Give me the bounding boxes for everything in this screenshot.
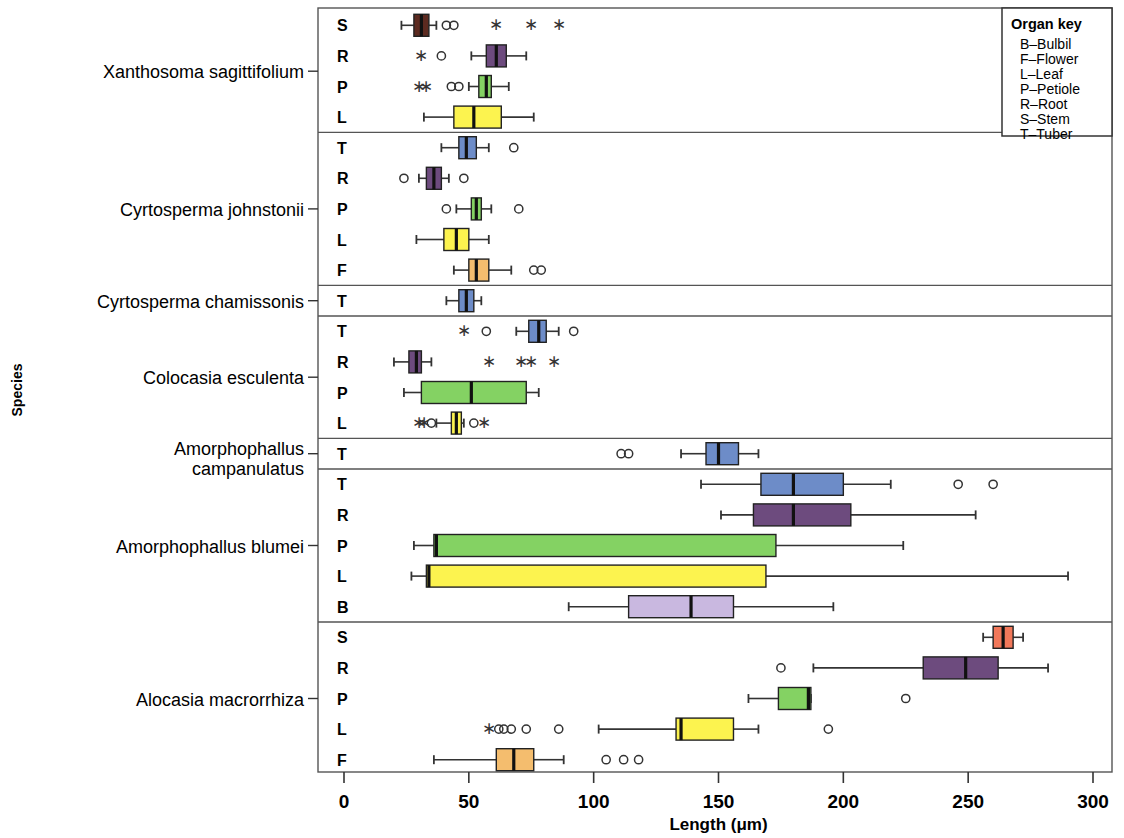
outlier-circle	[777, 664, 785, 672]
box	[761, 473, 843, 495]
outlier-star: ∗	[524, 15, 538, 34]
outlier-circle	[570, 327, 578, 335]
boxplot-row-R	[777, 657, 1048, 679]
outlier-circle	[635, 756, 643, 764]
organ-label-T: T	[337, 140, 347, 157]
box	[676, 718, 733, 740]
boxplot-row-T	[617, 443, 758, 465]
organ-label-R: R	[337, 507, 349, 524]
organ-label-T: T	[337, 293, 347, 310]
outlier-star: ∗	[482, 719, 496, 738]
organ-label-R: R	[337, 170, 349, 187]
outlier-circle	[460, 174, 468, 182]
box	[753, 504, 850, 526]
outlier-star: ∗	[547, 352, 561, 371]
organ-label-L: L	[337, 415, 347, 432]
box	[706, 443, 738, 465]
outlier-circle	[902, 694, 910, 702]
organ-label-F: F	[337, 752, 347, 769]
outlier-star: ∗	[477, 413, 491, 432]
outlier-star: ∗	[482, 352, 496, 371]
organ-label-S: S	[337, 629, 348, 646]
boxplot-row-R	[721, 504, 976, 526]
legend-entry-T: T–Tuber	[1020, 126, 1073, 142]
organ-label-R: R	[337, 660, 349, 677]
boxplot-svg: ∗∗∗∗∗∗∗∗∗∗∗∗∗∗∗SRPLTRPLFTTRPLTTRPLBSRPLF…	[0, 0, 1124, 838]
legend-entry-B: B–Bulbil	[1020, 36, 1071, 52]
species-label: Cyrtosperma chamissonis	[97, 292, 304, 312]
species-label: Amorphophallus	[174, 439, 304, 459]
box	[426, 565, 766, 587]
organ-label-R: R	[337, 48, 349, 65]
x-tick-label: 50	[458, 791, 479, 812]
boxplot-row-L	[411, 565, 1068, 587]
organ-label-P: P	[337, 79, 348, 96]
boxplot-row-P	[404, 382, 539, 404]
box	[469, 259, 489, 281]
organ-label-L: L	[337, 568, 347, 585]
organ-label-T: T	[337, 323, 347, 340]
organ-label-P: P	[337, 201, 348, 218]
outlier-star: ∗	[417, 413, 431, 432]
organ-label-T: T	[337, 446, 347, 463]
boxplot-row-B	[569, 596, 834, 618]
outlier-star: ∗	[457, 321, 471, 340]
species-label: campanulatus	[192, 459, 304, 479]
organ-label-P: P	[337, 385, 348, 402]
boxplot-row-T	[701, 473, 997, 495]
species-label: Colocasia esculenta	[143, 368, 305, 388]
boxplot-row-R: ∗∗∗∗	[394, 351, 561, 373]
x-tick-label: 250	[952, 791, 984, 812]
boxplot-row-S: ∗∗∗	[401, 14, 565, 36]
boxplot-row-R	[400, 167, 468, 189]
organ-label-L: L	[337, 232, 347, 249]
boxplot-row-T	[446, 290, 481, 312]
organ-label-F: F	[337, 262, 347, 279]
boxplot-row-P	[442, 198, 523, 220]
boxplot-row-P: ∗∗	[412, 76, 509, 98]
outlier-star: ∗	[414, 46, 428, 65]
boxplot-row-F	[434, 749, 643, 771]
boxplot-row-T	[441, 137, 518, 159]
x-tick-label: 200	[827, 791, 859, 812]
outlier-circle	[515, 205, 523, 213]
y-axis-title: Species	[9, 363, 25, 416]
boxplot-row-R: ∗	[414, 45, 526, 67]
organ-label-L: L	[337, 109, 347, 126]
legend-entry-F: F–Flower	[1020, 51, 1079, 67]
outlier-circle	[602, 756, 610, 764]
boxplot-row-L	[424, 106, 534, 128]
organ-label-B: B	[337, 599, 349, 616]
species-label: Amorphophallus blumei	[116, 537, 304, 557]
outlier-circle	[442, 205, 450, 213]
organ-label-P: P	[337, 538, 348, 555]
organ-label-S: S	[337, 17, 348, 34]
outlier-circle	[437, 52, 445, 60]
box	[434, 535, 776, 557]
boxplot-row-F	[454, 259, 545, 281]
box	[421, 382, 526, 404]
species-label: Cyrtosperma johnstonii	[120, 200, 304, 220]
outlier-circle	[989, 480, 997, 488]
x-tick-label: 0	[339, 791, 350, 812]
x-tick-label: 100	[578, 791, 610, 812]
organ-label-P: P	[337, 691, 348, 708]
outlier-circle	[555, 725, 563, 733]
outlier-circle	[510, 144, 518, 152]
legend-entry-P: P–Petiole	[1020, 81, 1080, 97]
boxplot-row-T: ∗	[457, 320, 578, 342]
x-axis-title: Length (μm)	[669, 815, 767, 834]
x-tick-label: 300	[1077, 791, 1109, 812]
outlier-circle	[482, 327, 490, 335]
box	[923, 657, 998, 679]
box	[778, 688, 810, 710]
species-label: Xanthosoma sagittifolium	[103, 62, 304, 82]
outlier-star: ∗	[489, 15, 503, 34]
box	[454, 106, 501, 128]
boxplot-figure: ∗∗∗∗∗∗∗∗∗∗∗∗∗∗∗SRPLTRPLFTTRPLTTRPLBSRPLF…	[0, 0, 1124, 838]
boxplot-row-L: ∗	[482, 718, 833, 740]
legend-entry-S: S–Stem	[1020, 111, 1070, 127]
species-label: Alocasia macrorrhiza	[136, 690, 305, 710]
outlier-star: ∗	[524, 352, 538, 371]
boxplot-row-S	[983, 626, 1023, 648]
